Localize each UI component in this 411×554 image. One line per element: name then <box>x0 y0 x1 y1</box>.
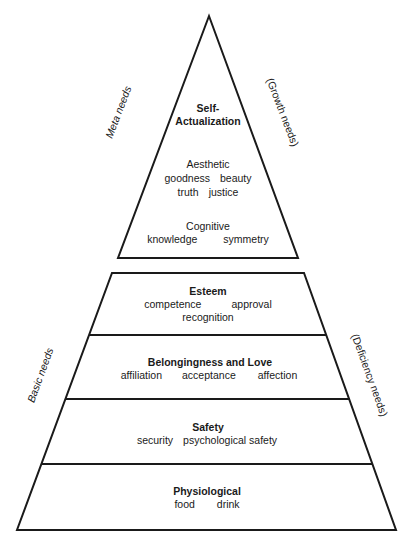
self-actualization-title-line2: Actualization <box>175 115 240 127</box>
pyramid-shapes <box>0 0 411 554</box>
item-beauty: beauty <box>220 172 252 184</box>
item-security: security <box>137 434 173 446</box>
item-affection: affection <box>258 369 298 381</box>
safety-row-1: securitypsychological safety <box>137 434 277 446</box>
item-affiliation: affiliation <box>121 369 162 381</box>
cognitive-row-1: knowledgesymmetry <box>147 233 269 245</box>
item-recognition: recognition <box>182 311 233 323</box>
aesthetic-heading: Aesthetic <box>186 158 229 170</box>
belongingness-row-1: affiliationacceptanceaffection <box>121 369 298 381</box>
aesthetic-row-2: truthjustice <box>178 186 239 198</box>
item-justice: justice <box>209 186 239 198</box>
item-competence: competence <box>144 298 201 310</box>
item-knowledge: knowledge <box>147 233 197 245</box>
esteem-title: Esteem <box>189 285 226 297</box>
item-approval: approval <box>231 298 271 310</box>
item-goodness: goodness <box>164 172 210 184</box>
physiological-title: Physiological <box>173 485 241 497</box>
item-psychological-safety: psychological safety <box>183 434 277 446</box>
item-acceptance: acceptance <box>182 369 236 381</box>
aesthetic-row-1: goodnessbeauty <box>164 172 251 184</box>
physiological-row-1: fooddrink <box>174 498 239 510</box>
item-symmetry: symmetry <box>223 233 269 245</box>
belongingness-title: Belongingness and Love <box>148 356 272 368</box>
item-food: food <box>174 498 194 510</box>
item-truth: truth <box>178 186 199 198</box>
cognitive-heading: Cognitive <box>186 220 230 232</box>
esteem-row-1: competenceapproval <box>144 298 271 310</box>
self-actualization-title-line1: Self- <box>197 102 220 114</box>
safety-title: Safety <box>192 421 224 433</box>
item-drink: drink <box>217 498 240 510</box>
